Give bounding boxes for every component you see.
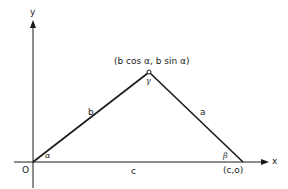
x-axis-label: x — [272, 157, 277, 166]
right-vertex-label: (c,o) — [223, 166, 243, 175]
angle-beta-label: β — [223, 152, 228, 160]
side-c-label: c — [131, 167, 136, 176]
x-axis-arrow-icon — [261, 159, 269, 165]
side-b — [33, 73, 148, 162]
apex-coordinate-label: (b cos α, b sin α) — [114, 57, 190, 66]
apex-vertex — [147, 70, 151, 74]
side-a-label: a — [200, 108, 206, 117]
side-a — [150, 73, 243, 162]
origin-label: O — [22, 166, 29, 175]
y-axis-arrow-icon — [30, 20, 36, 28]
angle-alpha-label: α — [45, 152, 50, 160]
y-axis-label: y — [30, 8, 35, 17]
angle-gamma-label: γ — [146, 77, 151, 85]
side-b-label: b — [88, 108, 94, 117]
diagram-canvas — [0, 0, 288, 189]
